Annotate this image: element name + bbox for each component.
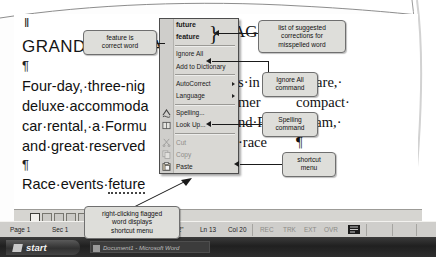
status-ovr[interactable]: OVR <box>324 226 338 233</box>
menu-item-label: Look Up... <box>176 121 206 128</box>
status-divider-5 <box>416 224 417 236</box>
status-column: Col 20 <box>228 226 246 233</box>
callout-text: right-clicking flagged word displays sho… <box>102 210 162 234</box>
menu-item-paste[interactable]: Paste <box>160 161 238 173</box>
windows-flag-icon <box>12 244 23 252</box>
callout-text: Spelling command <box>276 116 305 131</box>
callout-feature-correct: feature is correct word <box>83 30 157 55</box>
status-trk[interactable]: TRK <box>283 226 296 233</box>
menu-item-label: Cut <box>176 139 186 146</box>
menu-item-suggestion-future[interactable]: future <box>160 19 238 31</box>
menu-item-look-up[interactable]: Look Up... <box>160 119 238 131</box>
callout-text: feature is correct word <box>102 34 138 49</box>
status-page: Page 1 <box>10 226 30 233</box>
menu-item-language[interactable]: Language <box>160 90 238 102</box>
callout-spelling: Spelling command <box>262 112 318 137</box>
callout-text: Ignore All command <box>276 76 305 91</box>
status-line: Ln 13 <box>200 226 216 233</box>
start-button-label: start <box>26 242 47 253</box>
menu-item-label: feature <box>176 33 199 40</box>
word-document-icon <box>93 245 100 252</box>
spelling-status-icon[interactable] <box>348 225 360 234</box>
menu-item-label: future <box>176 21 196 28</box>
menu-separator-1 <box>175 45 235 47</box>
status-divider-3 <box>366 224 367 236</box>
callout-shortcut-menu: shortcut menu <box>282 152 336 177</box>
menu-item-cut: Cut <box>160 137 238 149</box>
cut-icon <box>162 138 171 147</box>
menu-item-label: Language <box>176 92 205 99</box>
menu-separator-4 <box>175 133 235 135</box>
flagged-line-prefix: Race·events· <box>22 176 108 192</box>
menu-item-label: Paste <box>176 163 193 170</box>
leader-shortcut-menu <box>240 164 282 165</box>
menu-item-label: Spelling... <box>176 109 205 116</box>
menu-item-label: Add to Dictionary <box>176 63 226 70</box>
taskbar-window-button[interactable]: Document1 - Microsoft Word <box>90 241 210 253</box>
menu-item-label: Ignore All <box>176 50 203 57</box>
copy-icon <box>162 150 171 159</box>
menu-item-autocorrect[interactable]: AutoCorrect <box>160 78 238 90</box>
menu-separator-2 <box>175 74 235 76</box>
spelling-icon <box>162 109 171 118</box>
page-bottom-margin <box>0 257 436 264</box>
start-button[interactable]: start <box>6 240 80 255</box>
arrowhead-spelling <box>206 121 211 127</box>
status-section: Sec 1 <box>52 226 68 233</box>
menu-item-copy: Copy <box>160 149 238 161</box>
menu-items: future feature Ignore All Add to Diction… <box>160 19 238 173</box>
menu-item-ignore-all[interactable]: Ignore All <box>160 48 238 60</box>
leader-ignore-all-h <box>212 61 268 62</box>
suggestion-brace: } <box>209 22 219 45</box>
menu-separator-3 <box>175 104 235 106</box>
arrowhead-ignore-all <box>206 58 211 64</box>
menu-item-add-to-dictionary[interactable]: Add to Dictionary <box>160 61 238 73</box>
leader-suggestion-list <box>219 33 258 34</box>
taskbar-window-label: Document1 - Microsoft Word <box>103 245 179 251</box>
shortcut-menu[interactable]: future feature Ignore All Add to Diction… <box>159 18 239 174</box>
status-divider-2 <box>252 224 253 236</box>
taskbar: start Document1 - Microsoft Word <box>0 237 436 257</box>
submenu-arrow-icon <box>232 94 235 98</box>
callout-text: list of suggested corrections for misspe… <box>278 24 326 48</box>
arrowhead-shortcut-menu <box>234 161 239 167</box>
leader-spelling <box>212 124 264 125</box>
callout-ignore-all: Ignore All command <box>262 72 318 97</box>
status-ext[interactable]: EXT <box>304 226 316 233</box>
callout-suggestion-list: list of suggested corrections for misspe… <box>258 20 346 53</box>
menu-item-label: AutoCorrect <box>176 80 211 87</box>
callout-right-click: right-clicking flagged word displays sho… <box>84 206 180 239</box>
lookup-icon <box>162 121 171 130</box>
paste-icon <box>162 162 171 171</box>
menu-item-spelling[interactable]: Spelling... <box>160 107 238 119</box>
menu-item-label: Copy <box>176 151 191 158</box>
figure-root: ‖ GRAND PRIX RACING ¶ Four-day,·three-ni… <box>0 0 436 264</box>
document-flagged-line: Race·events·feture <box>22 174 402 194</box>
status-divider-4 <box>392 224 393 236</box>
submenu-arrow-icon <box>232 82 235 86</box>
callout-text: shortcut menu <box>297 156 320 171</box>
status-rec[interactable]: REC <box>260 226 274 233</box>
